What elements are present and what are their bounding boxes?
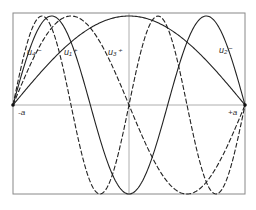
left-endpoint-marker <box>11 103 15 107</box>
label-minus-a: -a <box>18 108 26 117</box>
label-u1-plus: u₁⁺ <box>64 47 78 57</box>
label-plus-a: +a <box>228 108 238 117</box>
mode-shape-diagram: -a +a u₁⁺ u₂⁻ u₃⁺ u₄⁻ <box>0 0 256 210</box>
label-u2-minus: u₂⁻ <box>219 45 233 55</box>
right-endpoint-marker <box>243 103 247 107</box>
label-u4-minus: u₄⁻ <box>27 47 42 57</box>
label-u3-plus: u₃⁺ <box>108 47 123 57</box>
